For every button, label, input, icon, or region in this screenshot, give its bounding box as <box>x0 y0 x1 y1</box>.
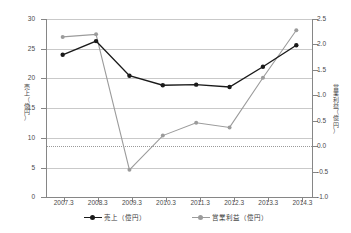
legend-item-operating-profit[interactable]: 営業利益（億円） <box>192 212 268 222</box>
series-layer <box>0 0 351 233</box>
data-point <box>94 39 98 43</box>
data-point <box>61 35 65 39</box>
data-point <box>294 43 298 47</box>
markers-operating-profit <box>61 28 299 172</box>
data-point <box>161 83 165 87</box>
data-point <box>228 125 232 129</box>
data-point <box>294 28 298 32</box>
data-point <box>161 134 165 138</box>
markers-sales <box>60 39 298 89</box>
chart-legend: 売上（億円） 営業利益（億円） <box>0 212 351 222</box>
legend-label-sales: 売上（億円） <box>104 212 146 222</box>
chart-container: 30 25 20 15 10 5 0 2.5 2.0 1.5 1.0 0.5 0… <box>0 0 351 233</box>
legend-marker-operating-profit-icon <box>192 214 210 221</box>
data-point <box>127 73 131 77</box>
legend-label-operating-profit: 営業利益（億円） <box>212 212 268 222</box>
data-point <box>227 85 231 89</box>
line-operating-profit <box>63 30 297 170</box>
data-point <box>261 65 265 69</box>
legend-item-sales[interactable]: 売上（億円） <box>84 212 146 222</box>
data-point <box>60 53 64 57</box>
data-point <box>194 82 198 86</box>
data-point <box>261 76 265 80</box>
data-point <box>127 168 131 172</box>
data-point <box>94 32 98 36</box>
legend-marker-sales-icon <box>84 214 102 221</box>
data-point <box>194 121 198 125</box>
